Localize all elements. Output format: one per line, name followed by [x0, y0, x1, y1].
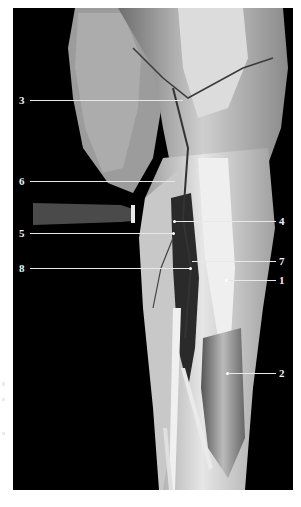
scan-artifact [2, 382, 5, 386]
label-4: 4 [279, 215, 285, 227]
label-6: 6 [19, 175, 25, 187]
leader-line-6 [30, 181, 175, 182]
label-7: 7 [279, 255, 285, 267]
label-1: 1 [279, 274, 285, 286]
specimen-photo-panel [13, 8, 293, 490]
label-3: 3 [19, 94, 25, 106]
leader-dot-8 [189, 267, 192, 270]
leader-line-2 [227, 373, 276, 374]
label-5: 5 [19, 227, 25, 239]
leader-dot-1 [225, 279, 228, 282]
label-8: 8 [19, 262, 25, 274]
leader-line-1 [226, 280, 276, 281]
leader-dot-2 [226, 372, 229, 375]
leader-dot-4 [173, 220, 176, 223]
leader-line-7 [192, 261, 276, 262]
scan-artifact [2, 432, 5, 435]
leader-dot-5 [172, 232, 175, 235]
label-2: 2 [279, 367, 285, 379]
dissection-specimen-image [13, 8, 293, 490]
leader-line-5 [30, 233, 173, 234]
leader-line-4 [174, 221, 276, 222]
scan-artifact [2, 398, 5, 401]
leader-line-3 [30, 100, 183, 101]
leader-line-8 [30, 268, 190, 269]
